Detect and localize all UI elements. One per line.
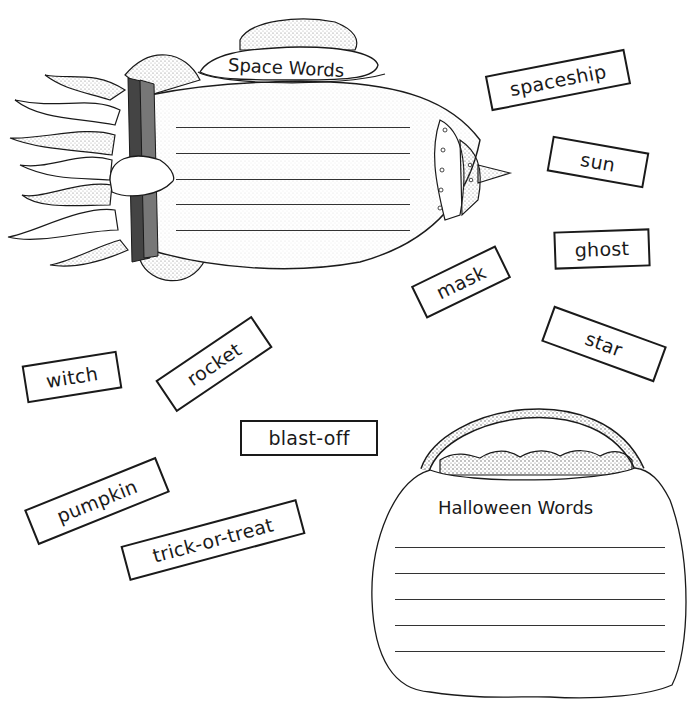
writing-line[interactable]	[395, 547, 665, 548]
writing-line[interactable]	[395, 599, 665, 600]
word-card-blast-off[interactable]: blast-off	[240, 420, 378, 456]
word-card-ghost[interactable]: ghost	[553, 228, 650, 269]
writing-line[interactable]	[395, 651, 665, 652]
halloween-words-title: Halloween Words	[438, 497, 593, 518]
writing-line[interactable]	[395, 625, 665, 626]
writing-line[interactable]	[395, 573, 665, 574]
